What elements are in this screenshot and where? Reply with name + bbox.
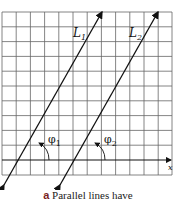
caption-text: Parallel lines have <box>52 189 133 201</box>
x-axis-label: x <box>168 163 173 172</box>
grid <box>2 12 172 175</box>
caption-letter: a <box>43 189 49 201</box>
label-L1: L1 <box>72 26 86 42</box>
label-L2: L2 <box>128 26 142 42</box>
label-phi2: φ2 <box>104 133 117 148</box>
figure-caption: a Parallel lines have <box>0 189 176 201</box>
parallel-lines-diagram: x L1 L2 φ1 φ2 <box>0 0 176 190</box>
